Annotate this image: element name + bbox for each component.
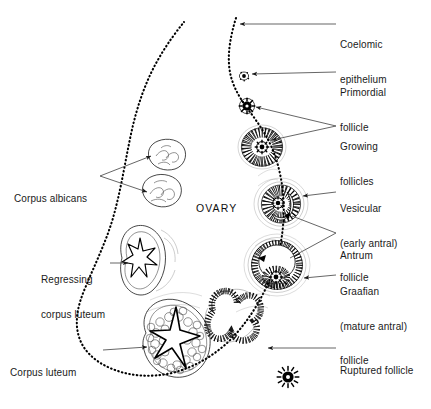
leader-corpus-albicans-lower bbox=[100, 176, 147, 192]
leader-growing-follicle-large bbox=[272, 126, 336, 140]
corpus-luteum-body bbox=[143, 299, 210, 377]
leader-antrum-lower bbox=[290, 233, 336, 258]
label-corpus-luteum: Corpus luteum bbox=[10, 344, 76, 402]
corpus-albicans-lower bbox=[142, 174, 181, 206]
leader-graafian-follicle bbox=[304, 275, 336, 278]
leader-corpus-luteum bbox=[103, 347, 147, 350]
leader-primordial-follicle bbox=[252, 72, 336, 74]
regressing-corpus-luteum-body bbox=[121, 225, 178, 295]
leader-antrum-upper bbox=[292, 216, 336, 233]
growing-follicle-large bbox=[238, 125, 286, 169]
corpus-albicans-upper bbox=[148, 139, 185, 170]
primordial-follicle-body bbox=[239, 72, 249, 82]
label-ovary: OVARY bbox=[196, 203, 237, 215]
graafian-follicle-body bbox=[244, 234, 310, 296]
label-corpus-albicans: Corpus albicans bbox=[14, 170, 87, 228]
figure-ovary-cycle-diagram: .dot { fill:none; stroke:#000; stroke-wi… bbox=[0, 0, 431, 409]
vesicular-follicle-body bbox=[254, 178, 308, 230]
leader-lines bbox=[100, 24, 336, 350]
leader-vesicular-follicle bbox=[303, 192, 336, 196]
ovulated-oocyte bbox=[277, 367, 299, 388]
leader-growing-follicle-small bbox=[256, 107, 336, 126]
label-regressing-corpus-luteum: Regressing corpus luteum bbox=[41, 251, 105, 343]
ruptured-follicle-body bbox=[205, 289, 261, 342]
growing-follicle-small bbox=[239, 98, 255, 114]
label-ruptured-follicle: Ruptured follicle bbox=[340, 342, 413, 400]
